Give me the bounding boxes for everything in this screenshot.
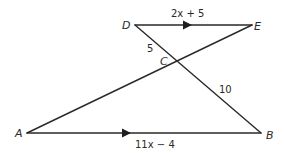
parallel-arrow-icon-ab <box>122 129 131 138</box>
vertex-label-a: A <box>14 127 23 140</box>
vertex-label-e: E <box>254 20 261 33</box>
length-label-cb: 10 <box>219 84 232 95</box>
length-label-ab: 11x − 4 <box>135 139 175 150</box>
length-label-de: 2x + 5 <box>171 8 204 19</box>
segment-db <box>135 25 261 133</box>
segment-ea <box>27 25 252 133</box>
vertex-label-b: B <box>266 129 274 142</box>
parallel-arrow-icon-de <box>183 21 192 30</box>
vertex-label-d: D <box>122 19 130 32</box>
geometry-diagram: D E A B C 2x + 5 11x − 4 5 10 <box>0 0 285 153</box>
length-label-dc: 5 <box>147 43 153 54</box>
vertex-label-c: C <box>160 55 168 68</box>
